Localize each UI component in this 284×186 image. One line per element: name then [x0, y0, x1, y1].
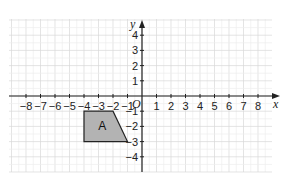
origin-label: O [132, 97, 141, 111]
x-tick-label: 8 [255, 100, 261, 112]
x-tick-label: 6 [226, 100, 232, 112]
y-tick-label: −4 [125, 151, 138, 163]
x-tick-label: 7 [240, 100, 246, 112]
x-tick-label: −5 [63, 100, 76, 112]
x-tick-label: 5 [211, 100, 217, 112]
x-tick-label: −2 [107, 100, 120, 112]
y-tick-label: −2 [125, 120, 138, 132]
x-tick-label: 1 [153, 100, 159, 112]
x-tick-label: 3 [182, 100, 188, 112]
x-tick-label: −7 [34, 100, 47, 112]
x-tick-label: 2 [168, 100, 174, 112]
x-tick-label: −6 [49, 100, 62, 112]
shape-label: A [98, 119, 106, 133]
coordinate-grid: A −8−7−6−5−4−3−2−1123456784321−1−2−3−4xy… [0, 0, 284, 186]
x-tick-label: −3 [92, 100, 105, 112]
x-axis-label: x [272, 97, 279, 111]
y-axis-arrow-icon [139, 20, 145, 28]
y-tick-label: 4 [132, 29, 138, 41]
y-tick-label: −3 [125, 136, 138, 148]
y-tick-label: 3 [132, 44, 138, 56]
y-axis-label: y [129, 17, 136, 31]
y-tick-label: 2 [132, 60, 138, 72]
x-tick-label: −4 [78, 100, 91, 112]
y-tick-label: 1 [132, 75, 138, 87]
x-tick-label: 4 [197, 100, 203, 112]
x-tick-label: −8 [20, 100, 33, 112]
